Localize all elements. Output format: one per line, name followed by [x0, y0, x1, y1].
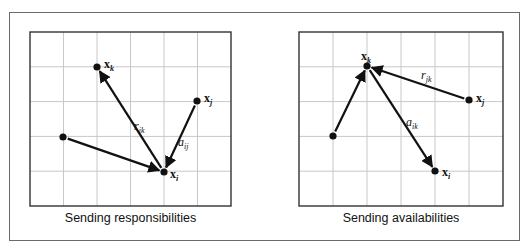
edge-label: aik: [406, 115, 418, 131]
data-point: [160, 168, 167, 175]
data-point: [59, 133, 66, 140]
point-label: xi: [170, 167, 179, 183]
point-label: xk: [104, 57, 114, 73]
caption-sending-availabilities: Sending availabilities: [299, 211, 503, 225]
panel-sending-responsibilities: rikaijxkxjxi: [30, 32, 231, 206]
message-arrow: [335, 70, 365, 131]
point-label: xi: [442, 165, 451, 181]
data-point: [93, 63, 100, 70]
point-label: xj: [204, 91, 213, 107]
edge-label: rjk: [421, 68, 432, 84]
point-label: xj: [476, 91, 485, 107]
data-point: [465, 96, 472, 103]
panel-sending-availabilities: rjkaikxkxjxi: [299, 32, 503, 206]
caption-sending-responsibilities: Sending responsibilities: [30, 211, 231, 225]
data-point: [431, 167, 438, 174]
point-label: xk: [361, 49, 371, 65]
data-point: [193, 97, 200, 104]
edge-label: aij: [178, 135, 189, 151]
edge-label: rik: [134, 119, 145, 135]
data-point: [329, 132, 336, 139]
